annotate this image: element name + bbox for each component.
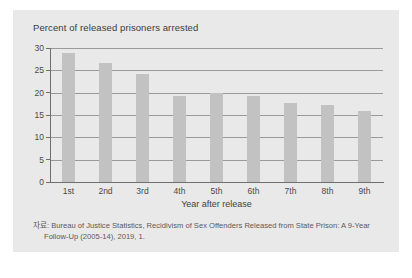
bar-slot bbox=[50, 48, 87, 182]
y-tick-label: 25 bbox=[35, 65, 44, 75]
bar-slot bbox=[161, 48, 198, 182]
x-tick-label-8th: 8th bbox=[309, 186, 346, 196]
x-tick-label-5th: 5th bbox=[198, 186, 235, 196]
bar-7th bbox=[284, 103, 297, 183]
x-axis-ticks: 1st2nd3rd4th5th6th7th8th9th bbox=[50, 186, 383, 196]
bar-6th bbox=[247, 96, 260, 182]
source-note: 자료: Bureau of Justice Statistics, Recidi… bbox=[33, 220, 385, 242]
bar-slot bbox=[198, 48, 235, 182]
x-tick-label-6th: 6th bbox=[235, 186, 272, 196]
y-tick-15: 15 bbox=[35, 110, 50, 120]
y-tick-mark bbox=[46, 137, 50, 138]
plot-area bbox=[50, 48, 383, 182]
bar-slot bbox=[346, 48, 383, 182]
y-axis-line bbox=[50, 48, 51, 183]
x-axis-label: Year after release bbox=[50, 199, 383, 209]
y-tick-label: 20 bbox=[35, 88, 44, 98]
bar-slot bbox=[87, 48, 124, 182]
y-tick-0: 0 bbox=[39, 177, 50, 187]
y-tick-label: 15 bbox=[35, 110, 44, 120]
bar-3rd bbox=[136, 74, 149, 182]
bar-5th bbox=[210, 93, 223, 182]
y-tick-10: 10 bbox=[35, 132, 50, 142]
chart-figure: Percent of released prisoners arrested 0… bbox=[13, 10, 399, 252]
y-tick-20: 20 bbox=[35, 88, 50, 98]
y-tick-label: 10 bbox=[35, 132, 44, 142]
y-tick-label: 5 bbox=[39, 155, 44, 165]
x-tick-label-2nd: 2nd bbox=[87, 186, 124, 196]
source-line-1: 자료: Bureau of Justice Statistics, Recidi… bbox=[33, 220, 385, 231]
bar-series bbox=[50, 48, 383, 182]
x-tick-label-7th: 7th bbox=[272, 186, 309, 196]
y-tick-mark bbox=[46, 159, 50, 160]
bar-9th bbox=[358, 111, 371, 182]
bar-1st bbox=[62, 53, 75, 182]
x-tick-label-4th: 4th bbox=[161, 186, 198, 196]
x-tick-label-9th: 9th bbox=[346, 186, 383, 196]
bar-slot bbox=[124, 48, 161, 182]
y-tick-mark bbox=[46, 48, 50, 49]
bar-2nd bbox=[99, 63, 112, 182]
chart-title: Percent of released prisoners arrested bbox=[33, 22, 198, 33]
y-tick-30: 30 bbox=[35, 43, 50, 53]
bar-slot bbox=[235, 48, 272, 182]
y-tick-5: 5 bbox=[39, 155, 50, 165]
y-tick-mark bbox=[46, 70, 50, 71]
x-tick-label-1st: 1st bbox=[50, 186, 87, 196]
source-line-2: Follow-Up (2005-14), 2019, 1. bbox=[33, 231, 385, 242]
y-tick-25: 25 bbox=[35, 65, 50, 75]
y-tick-mark bbox=[46, 182, 50, 183]
x-axis-line bbox=[50, 182, 384, 183]
y-tick-mark bbox=[46, 92, 50, 93]
y-tick-mark bbox=[46, 115, 50, 116]
y-tick-label: 30 bbox=[35, 43, 44, 53]
bar-4th bbox=[173, 96, 186, 182]
y-tick-label: 0 bbox=[39, 177, 44, 187]
bar-slot bbox=[309, 48, 346, 182]
bar-slot bbox=[272, 48, 309, 182]
x-tick-label-3rd: 3rd bbox=[124, 186, 161, 196]
bar-8th bbox=[321, 105, 334, 182]
